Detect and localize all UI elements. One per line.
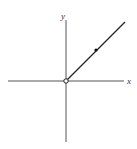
x-axis-label: x: [126, 76, 131, 86]
closed-point: [94, 48, 97, 51]
y-axis-label: y: [60, 11, 65, 21]
open-circle-origin: [64, 79, 68, 83]
graph-diagram: x y: [0, 0, 137, 149]
